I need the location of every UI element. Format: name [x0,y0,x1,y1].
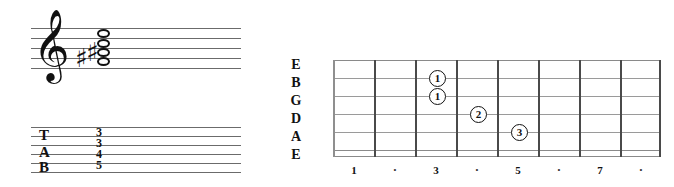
music-notation-figure: 𝄞 ♯ ♯ T A B 3 3 4 5 E B G D A E [0,0,674,187]
fret-line-7 [620,60,622,157]
string-label-e-high: E [288,58,304,72]
string-label-d: D [288,112,304,126]
tab-letter-a: A [39,145,50,160]
treble-clef-icon: 𝄞 [33,14,70,76]
notehead-middle [97,48,110,57]
notehead-lower [97,57,110,66]
fret-line-2 [415,60,417,157]
fret-line-6 [579,60,581,157]
fret-number-1: 1 [345,163,363,177]
tab-letter-b: B [39,160,49,175]
fret-line-8 [659,60,661,157]
notehead-top [97,29,110,38]
finger-marker-2-string-d[interactable]: 2 [470,106,487,123]
string-label-column: E B G D A E [288,58,304,158]
string-label-a: A [288,130,304,144]
fret-number-6: · [550,163,568,177]
tab-line-4 [31,154,241,155]
nut [333,60,335,157]
finger-marker-3-string-a[interactable]: 3 [511,124,528,141]
finger-marker-1-string-g[interactable]: 1 [429,88,446,105]
fret-line-4 [497,60,499,157]
fret-number-3: 3 [427,163,445,177]
string-label-b: B [288,76,304,90]
tab-line-2 [31,136,241,137]
fret-line-3 [456,60,458,157]
fret-line-1 [374,60,376,157]
fret-line-5 [538,60,540,157]
tab-line-1 [31,127,241,128]
tablature-staff: T A B 3 3 4 5 [31,127,241,172]
string-label-g: G [288,94,304,108]
fret-number-5: 5 [509,163,527,177]
finger-marker-1-string-b[interactable]: 1 [429,70,446,87]
fret-number-8: · [632,163,650,177]
fret-number-7: 7 [591,163,609,177]
string-label-e-low: E [288,148,304,162]
tab-letter-t: T [39,128,49,143]
tab-line-3 [31,145,241,146]
fret-number-row: 1 · 3 · 5 · 7 · [333,163,661,181]
notehead-upper [97,39,110,48]
notation-staff: 𝄞 ♯ ♯ [31,28,241,69]
tab-line-5 [31,163,241,164]
fret-number-2: · [386,163,404,177]
fretboard-diagram[interactable]: 1 1 2 3 [333,60,661,157]
tab-number-4: 5 [96,159,102,171]
tab-line-6 [31,172,241,173]
fret-number-4: · [468,163,486,177]
